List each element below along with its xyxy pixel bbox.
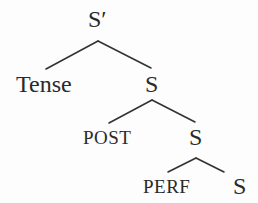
- edge-sprime-s1: [98, 41, 151, 68]
- edge-s1-s2: [152, 100, 195, 122]
- edge-s2-perf: [168, 158, 196, 172]
- node-tense: Tense: [16, 72, 72, 96]
- node-s-level2: S: [189, 125, 202, 149]
- node-s-level1: S: [145, 72, 158, 96]
- edge-s2-s3: [196, 158, 224, 172]
- node-s-level3: S: [233, 174, 246, 198]
- edge-sprime-tense: [46, 41, 98, 69]
- node-perf: PERF: [143, 177, 190, 196]
- tree-edges: [0, 0, 258, 203]
- syntax-tree-diagram: S′ Tense S POST S PERF S: [0, 0, 258, 203]
- node-post: POST: [83, 128, 131, 147]
- edge-s1-post: [109, 100, 152, 123]
- node-s-bar: S′: [88, 7, 107, 31]
